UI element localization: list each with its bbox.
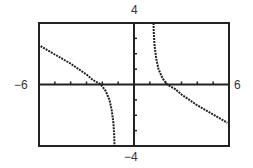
y-max-label: 4 [131, 4, 138, 16]
axes [39, 23, 229, 146]
x-min-label: −6 [14, 79, 28, 91]
y-min-label: −4 [124, 151, 138, 163]
x-max-label: 6 [234, 79, 241, 91]
left-branch-curve [41, 46, 115, 146]
right-branch-curve [154, 23, 228, 123]
graph-plot [0, 0, 253, 168]
